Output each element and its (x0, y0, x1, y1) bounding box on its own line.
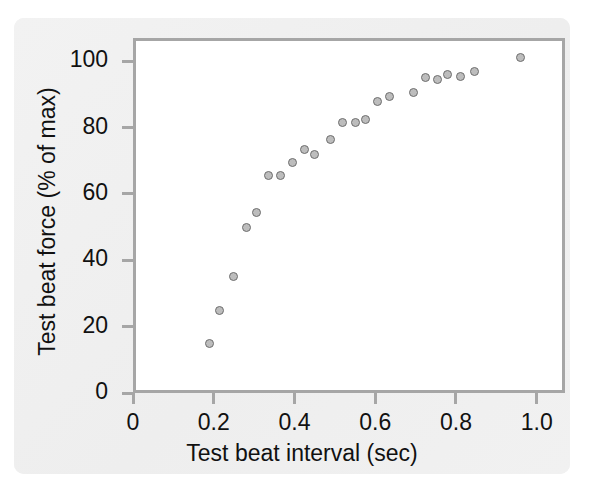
x-axis-tick-label: 1.0 (487, 409, 587, 436)
data-point (326, 135, 335, 144)
y-axis-title-container: Test beat force (% of max) (34, 57, 61, 387)
data-point (361, 115, 370, 124)
y-axis-tick (122, 126, 133, 129)
data-point (338, 118, 347, 127)
data-point (288, 158, 297, 167)
data-point (242, 223, 251, 232)
y-axis-tick (122, 259, 133, 262)
data-point (421, 73, 430, 82)
x-axis-title: Test beat interval (sec) (186, 440, 417, 466)
x-axis-tick (535, 393, 538, 404)
data-point (516, 53, 525, 62)
data-point (215, 306, 224, 315)
plot-area (133, 38, 565, 393)
y-axis-title: Test beat force (% of max) (34, 87, 60, 355)
data-point (470, 67, 479, 76)
data-point (456, 72, 465, 81)
data-point (409, 88, 418, 97)
x-axis-title-container: Test beat interval (sec) (0, 440, 604, 467)
data-point (310, 150, 319, 159)
x-axis-tick (212, 393, 215, 404)
figure-scatter-plot: 02040608010000.20.40.60.81.0 Test beat f… (0, 0, 604, 491)
data-point (252, 208, 261, 217)
y-axis-tick (122, 325, 133, 328)
data-point (443, 70, 452, 79)
data-point (433, 75, 442, 84)
y-axis-tick (122, 192, 133, 195)
data-point (229, 272, 238, 281)
data-point (373, 97, 382, 106)
data-point (300, 145, 309, 154)
x-axis-tick (293, 393, 296, 404)
x-axis-tick (454, 393, 457, 404)
data-point (205, 339, 214, 348)
x-axis-tick (374, 393, 377, 404)
data-point (385, 92, 394, 101)
data-point (264, 171, 273, 180)
y-axis-tick (122, 60, 133, 63)
data-point (351, 118, 360, 127)
x-axis-tick (132, 393, 135, 404)
data-point (276, 171, 285, 180)
